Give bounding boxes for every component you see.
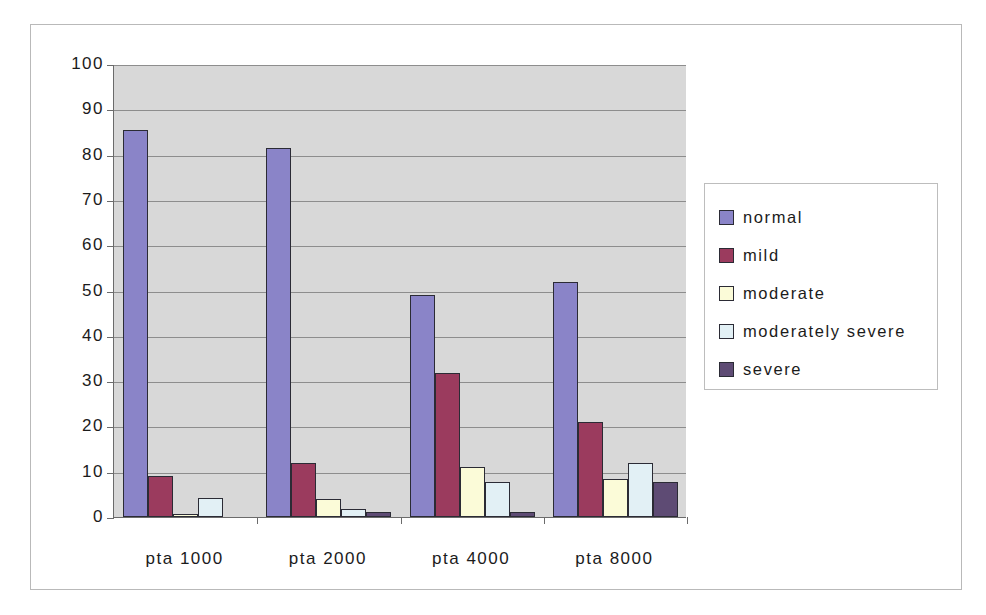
- bar: [553, 282, 578, 517]
- y-axis-tick-mark: [107, 427, 114, 428]
- bar-group: [257, 65, 400, 517]
- legend-item: severe: [719, 350, 937, 388]
- bar: [435, 373, 460, 517]
- bar: [485, 482, 510, 517]
- legend-label: normal: [743, 208, 803, 227]
- legend-swatch-icon: [719, 286, 734, 301]
- legend-swatch-icon: [719, 362, 734, 377]
- legend-swatch-icon: [719, 210, 734, 225]
- legend-label: severe: [743, 360, 802, 379]
- y-axis-tick-label: 0: [38, 507, 104, 527]
- y-axis-tick-mark: [107, 518, 114, 519]
- y-axis-tick-label: 60: [38, 235, 104, 255]
- legend-label: mild: [743, 246, 780, 265]
- y-axis-tick-mark: [107, 473, 114, 474]
- x-axis-tick-mark: [687, 517, 688, 524]
- y-axis-tick-label: 10: [38, 462, 104, 482]
- y-axis-tick-mark: [107, 65, 114, 66]
- legend-item: moderately severe: [719, 312, 937, 350]
- y-axis-tick-mark: [107, 337, 114, 338]
- bar: [603, 479, 628, 518]
- bar: [316, 499, 341, 517]
- bar: [341, 509, 366, 517]
- chart-legend: normalmildmoderatemoderately severesever…: [704, 183, 938, 390]
- legend-item: mild: [719, 236, 937, 274]
- x-axis-tick-label: pta 1000: [146, 549, 224, 569]
- x-axis-tick-mark: [544, 517, 545, 524]
- y-axis-tick-mark: [107, 382, 114, 383]
- y-axis-tick-mark: [107, 292, 114, 293]
- legend-swatch-icon: [719, 324, 734, 339]
- legend-item: normal: [719, 198, 937, 236]
- chart-frame: 1009080706050403020100 pta 1000pta 2000p…: [30, 24, 962, 590]
- bar-group: [401, 65, 544, 517]
- legend-item: moderate: [719, 274, 937, 312]
- y-axis-tick-label: 40: [38, 326, 104, 346]
- legend-label: moderately severe: [743, 322, 906, 341]
- x-axis-tick-mark: [257, 517, 258, 524]
- y-axis-tick-label: 50: [38, 281, 104, 301]
- y-axis-tick-label: 20: [38, 416, 104, 436]
- y-axis-tick-mark: [107, 110, 114, 111]
- bar: [653, 482, 678, 517]
- legend-swatch-icon: [719, 248, 734, 263]
- x-axis-tick-label: pta 8000: [575, 549, 653, 569]
- bar: [510, 512, 535, 517]
- bar-group: [114, 65, 257, 517]
- bar: [148, 476, 173, 517]
- y-axis-tick-mark: [107, 201, 114, 202]
- y-axis-tick-mark: [107, 156, 114, 157]
- bar: [123, 130, 148, 517]
- plot-area: 1009080706050403020100: [113, 65, 686, 518]
- y-axis-tick-mark: [107, 246, 114, 247]
- x-axis-tick-label: pta 4000: [432, 549, 510, 569]
- bar: [578, 422, 603, 517]
- bar: [173, 514, 198, 517]
- bar: [266, 148, 291, 517]
- x-axis-tick-label: pta 2000: [289, 549, 367, 569]
- y-axis-tick-label: 80: [38, 145, 104, 165]
- y-axis-tick-label: 100: [38, 54, 104, 74]
- bar: [366, 512, 391, 517]
- bar: [198, 498, 223, 517]
- legend-label: moderate: [743, 284, 826, 303]
- y-axis-tick-label: 70: [38, 190, 104, 210]
- bars-layer: [114, 65, 686, 517]
- x-axis-tick-mark: [401, 517, 402, 524]
- bar: [460, 467, 485, 517]
- bar: [410, 295, 435, 517]
- y-axis-tick-label: 90: [38, 99, 104, 119]
- bar: [291, 463, 316, 517]
- y-axis-tick-label: 30: [38, 371, 104, 391]
- bar: [628, 463, 653, 517]
- bar-group: [544, 65, 687, 517]
